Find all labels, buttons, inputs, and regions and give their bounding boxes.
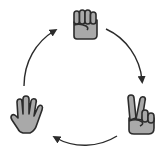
arrow-rock-to-scissors bbox=[106, 29, 142, 80]
v-sign-icon bbox=[125, 94, 157, 136]
rps-cycle-diagram: Rock Scissors Paper bbox=[0, 0, 163, 156]
open-hand-icon bbox=[8, 94, 50, 136]
arrow-scissors-to-paper bbox=[56, 136, 117, 145]
fist-icon bbox=[71, 8, 99, 40]
arrow-paper-to-rock bbox=[24, 31, 54, 86]
